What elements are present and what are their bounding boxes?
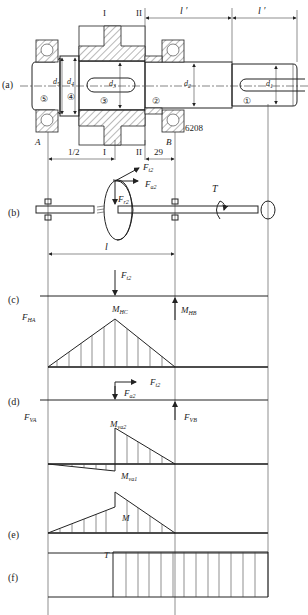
moment-MHC: MHC bbox=[111, 304, 129, 315]
dia-d5: d5 bbox=[53, 77, 60, 87]
section-mark-I-top: I bbox=[103, 8, 106, 18]
dim-l-prime-2: l ′ bbox=[258, 5, 266, 16]
dim-l-prime-1: l ′ bbox=[180, 5, 188, 16]
section-mark-II-top: II bbox=[136, 8, 142, 18]
dia-d4: d4 bbox=[67, 77, 74, 87]
segment-4: ④ bbox=[67, 92, 75, 102]
panel-label-d: (d) bbox=[8, 396, 20, 408]
dia-d2: d2 bbox=[184, 79, 191, 89]
bearing-label-B: B bbox=[166, 137, 172, 147]
reaction-MHB: MHB bbox=[180, 305, 197, 316]
panel-label-a: (a) bbox=[2, 79, 13, 91]
panel-label-f: (f) bbox=[8, 572, 18, 584]
moment-Mva1: Mva1 bbox=[120, 471, 137, 482]
load-Fa2-d: Fa2 bbox=[123, 388, 136, 399]
section-mark-II-bottom: II bbox=[136, 147, 142, 157]
torque-label-f: T bbox=[104, 550, 110, 560]
moment-Mva2: Mva2 bbox=[109, 419, 126, 430]
panel-e-combined-moment: (e) M bbox=[8, 492, 268, 541]
section-mark-I-bottom: I bbox=[103, 147, 106, 157]
hatch-lines-f bbox=[126, 552, 255, 597]
reaction-FVB: FVB bbox=[183, 412, 197, 423]
panel-b-force-model: (b) Ft2 Fa2 Fr2 T bbox=[8, 160, 275, 615]
panel-label-e: (e) bbox=[8, 529, 19, 541]
moment-M: M bbox=[121, 513, 130, 523]
segment-1: ① bbox=[243, 96, 251, 106]
bearing-label-A: A bbox=[34, 137, 41, 147]
hatch-lines-d bbox=[60, 435, 162, 470]
panel-label-c: (c) bbox=[8, 294, 19, 306]
reaction-FHA: FHA bbox=[21, 312, 36, 323]
force-Ft2: Ft2 bbox=[142, 162, 153, 173]
panel-c-horizontal-plane: (c) Ft2 MHB FHA MHC bbox=[8, 270, 268, 367]
load-Ft2-d: Ft2 bbox=[149, 377, 160, 388]
hatch-lines-e bbox=[60, 500, 162, 533]
torque-label-b: T bbox=[212, 183, 219, 194]
load-Ft2-c: Ft2 bbox=[120, 270, 131, 281]
dia-d3: d3 bbox=[109, 79, 116, 89]
segment-3: ③ bbox=[100, 96, 108, 106]
force-Fa2: Fa2 bbox=[144, 179, 157, 190]
hatch-lines-c bbox=[57, 319, 162, 367]
reaction-FVA: FVA bbox=[23, 412, 37, 423]
dim-29: 29 bbox=[154, 147, 164, 157]
force-Fr2: Fr2 bbox=[117, 194, 129, 205]
segment-5: ⑤ bbox=[40, 94, 48, 104]
segment-2: ② bbox=[152, 96, 160, 106]
bearing-code: 6208 bbox=[185, 123, 204, 133]
panel-label-b: (b) bbox=[8, 207, 20, 219]
dim-half-l: 1/2 bbox=[68, 147, 80, 157]
shaft-design-diagram: (a) l ′ l ′ I II bbox=[0, 0, 308, 615]
dim-l: l bbox=[105, 241, 108, 252]
panel-d-vertical-plane: (d) Ft2 Fa2 FVB FVA Mva2 Mva1 bbox=[8, 377, 268, 482]
dia-d1: d1 bbox=[266, 79, 273, 89]
